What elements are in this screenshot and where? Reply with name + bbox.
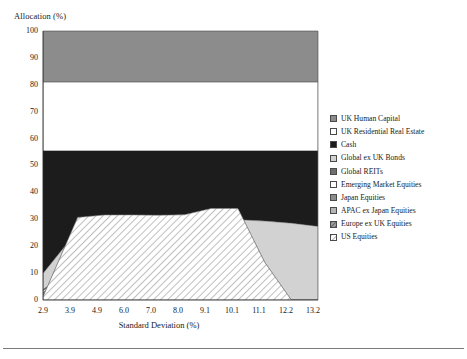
y-tick-0: 0 [12, 295, 38, 304]
legend-item-uk-residential-real-estate[interactable]: UK Residential Real Estate [330, 125, 465, 138]
legend-swatch-europe-ex-uk-equities [330, 221, 337, 228]
y-tick-40: 40 [12, 187, 38, 196]
legend-item-global-ex-uk-bonds[interactable]: Global ex UK Bonds [330, 152, 465, 165]
y-tick-10: 10 [12, 268, 38, 277]
legend-item-global-reits[interactable]: Global REITs [330, 165, 465, 178]
legend-item-europe-ex-uk-equities[interactable]: Europe ex UK Equities [330, 218, 465, 231]
y-tick-90: 90 [12, 53, 38, 62]
legend-label-global-ex-uk-bonds: Global ex UK Bonds [341, 154, 405, 162]
legend-item-uk-human-capital[interactable]: UK Human Capital [330, 112, 465, 125]
x-tick-8-0: 8.0 [163, 306, 193, 315]
legend-swatch-apac-ex-japan-equities [330, 207, 337, 214]
x-tick-6-0: 6.0 [109, 306, 139, 315]
legend-swatch-us-equities [330, 234, 337, 241]
legend-item-us-equities[interactable]: US Equities [330, 231, 465, 244]
legend-label-apac-ex-japan-equities: APAC ex Japan Equities [341, 207, 416, 215]
y-tick-30: 30 [12, 214, 38, 223]
x-tick-2-9: 2.9 [28, 306, 58, 315]
legend-swatch-emerging-market-equities [330, 181, 337, 188]
legend-label-emerging-market-equities: Emerging Market Equities [341, 181, 421, 189]
x-tick-9-1: 9.1 [190, 306, 220, 315]
legend-swatch-uk-human-capital [330, 115, 337, 122]
legend-label-europe-ex-uk-equities: Europe ex UK Equities [341, 220, 412, 228]
area-stack-group [43, 31, 318, 329]
hatch-dark-icon [331, 222, 336, 227]
legend-swatch-uk-residential-real-estate [330, 128, 337, 135]
x-tick-13-2: 13.2 [298, 306, 328, 315]
legend-label-us-equities: US Equities [341, 233, 378, 241]
legend-label-uk-residential-real-estate: UK Residential Real Estate [341, 128, 424, 136]
legend: UK Human Capital UK Residential Real Est… [330, 112, 465, 244]
x-tick-12-2: 12.2 [271, 306, 301, 315]
x-tick-7-0: 7.0 [136, 306, 166, 315]
hatch-light-icon [331, 235, 336, 240]
y-tick-80: 80 [12, 80, 38, 89]
y-tick-100: 100 [12, 26, 38, 35]
legend-label-uk-human-capital: UK Human Capital [341, 115, 400, 123]
legend-item-emerging-market-equities[interactable]: Emerging Market Equities [330, 178, 465, 191]
legend-label-cash: Cash [341, 141, 356, 149]
y-tick-70: 70 [12, 107, 38, 116]
bottom-rule [3, 348, 464, 349]
area-uk-human-capital [43, 31, 318, 82]
x-axis-title: Standard Deviation (%) [0, 320, 318, 330]
x-tick-11-1: 11.1 [244, 306, 274, 315]
legend-item-japan-equities[interactable]: Japan Equities [330, 191, 465, 204]
legend-swatch-global-reits [330, 168, 337, 175]
y-tick-60: 60 [12, 134, 38, 143]
legend-label-japan-equities: Japan Equities [341, 194, 385, 202]
legend-swatch-global-ex-uk-bonds [330, 155, 337, 162]
legend-swatch-japan-equities [330, 194, 337, 201]
x-tick-3-9: 3.9 [55, 306, 85, 315]
legend-item-cash[interactable]: Cash [330, 138, 465, 151]
x-tick-4-9: 4.9 [82, 306, 112, 315]
area-uk-residential-real-estate [43, 82, 318, 151]
legend-label-global-reits: Global REITs [341, 168, 383, 176]
legend-swatch-cash [330, 141, 337, 148]
x-tick-10-1: 10.1 [217, 306, 247, 315]
y-tick-20: 20 [12, 241, 38, 250]
y-tick-50: 50 [12, 160, 38, 169]
legend-item-apac-ex-japan-equities[interactable]: APAC ex Japan Equities [330, 204, 465, 217]
